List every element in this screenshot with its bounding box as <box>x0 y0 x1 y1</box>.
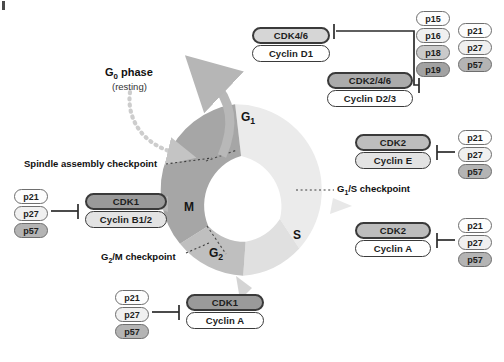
cyclin-pill-cyclind23[interactable]: Cyclin D2/3 <box>327 90 413 107</box>
inhibitor-group-ink4: p15 p16 p18 p19 <box>416 11 450 77</box>
inhibitor-p16[interactable]: p16 <box>416 28 450 43</box>
g0-reentry-arrow <box>129 92 176 153</box>
inhibitor-group-cipkip-top: p21 p27 p57 <box>458 23 492 72</box>
complex-cdk1-cyclina[interactable]: CDK1 Cyclin A <box>186 294 264 329</box>
complex-cdk46-cyclind1[interactable]: CDK4/6 Cyclin D1 <box>252 27 330 62</box>
cdk-pill-cdk46[interactable]: CDK4/6 <box>252 27 330 44</box>
inhibitor-p27-top[interactable]: p27 <box>458 40 492 55</box>
inhibitor-p21-cyclina-s[interactable]: p21 <box>458 218 492 233</box>
inhibitor-p27-cyclina-s[interactable]: p27 <box>458 235 492 250</box>
cdk-pill-cdk2-a[interactable]: CDK2 <box>355 222 431 239</box>
checkpoint-label-spindle: Spindle assembly checkpoint <box>24 158 157 169</box>
inhibitor-group-cyclinb: p21 p27 p57 <box>14 189 48 238</box>
inhibitor-p57-cycline[interactable]: p57 <box>458 164 492 179</box>
g0-title-rest: phase <box>118 66 153 78</box>
phase-label-m: M <box>184 200 194 214</box>
inhibitor-p21-cycline[interactable]: p21 <box>458 130 492 145</box>
cyclin-pill-cyclina-m[interactable]: Cyclin A <box>186 312 264 329</box>
g1s-b: /S checkpoint <box>348 183 410 194</box>
inhibitor-p57-cdk1a[interactable]: p57 <box>115 324 149 339</box>
inhibitor-p57-cyclinb[interactable]: p57 <box>14 223 48 238</box>
connector-ink4-bracket <box>336 31 414 48</box>
cdk-pill-cdk2-e[interactable]: CDK2 <box>355 134 431 151</box>
cdk-pill-cdk246[interactable]: CDK2/4/6 <box>327 72 413 89</box>
inhibitor-group-cdk1-cyclina: p21 p27 p57 <box>115 290 149 339</box>
cdk-pill-cdk1-b[interactable]: CDK1 <box>85 193 167 210</box>
g2m-b: /M checkpoint <box>112 251 175 262</box>
inhibitor-p19[interactable]: p19 <box>416 62 450 77</box>
g0-phase-subtitle: (resting) <box>112 81 147 92</box>
phase-g2-sub: 2 <box>218 252 223 262</box>
cyclin-pill-cyclind1[interactable]: Cyclin D1 <box>252 45 330 62</box>
complex-cdk246-cyclind23[interactable]: CDK2/4/6 Cyclin D2/3 <box>327 72 413 107</box>
cyclin-pill-cycline[interactable]: Cyclin E <box>355 152 431 169</box>
inhibitor-p27-cdk1a[interactable]: p27 <box>115 307 149 322</box>
inhibitor-p57-top[interactable]: p57 <box>458 57 492 72</box>
cyclin-pill-cyclinb12[interactable]: Cyclin B1/2 <box>85 211 167 228</box>
inhibitor-p27-cycline[interactable]: p27 <box>458 147 492 162</box>
complex-cdk2-cyclina[interactable]: CDK2 Cyclin A <box>355 222 431 257</box>
phase-g1-sub: 1 <box>250 116 255 126</box>
complex-cdk1-cyclinb[interactable]: CDK1 Cyclin B1/2 <box>85 193 167 228</box>
inhibitor-group-cyclina-s: p21 p27 p57 <box>458 218 492 267</box>
phase-label-g2: G2 <box>209 246 223 262</box>
inhibitor-group-cycline: p21 p27 p57 <box>458 130 492 179</box>
phase-label-s: S <box>293 228 301 242</box>
inhibitor-p21-cdk1a[interactable]: p21 <box>115 290 149 305</box>
g0-title-g: G <box>105 66 114 78</box>
inhibitor-p57-cyclina-s[interactable]: p57 <box>458 252 492 267</box>
inhibitor-p21-top[interactable]: p21 <box>458 23 492 38</box>
cycle-ring <box>150 104 352 300</box>
cdk-pill-cdk1-a[interactable]: CDK1 <box>186 294 264 311</box>
checkpoint-label-g2m: G2/M checkpoint <box>101 251 176 264</box>
checkpoint-label-g1s: G1/S checkpoint <box>337 183 410 196</box>
g0-phase-title: G0 phase <box>105 66 153 81</box>
inhibitor-p21-cyclinb[interactable]: p21 <box>14 189 48 204</box>
phase-label-g1: G1 <box>241 110 255 126</box>
cyclin-pill-cyclina-s[interactable]: Cyclin A <box>355 240 431 257</box>
complex-cdk2-cycline[interactable]: CDK2 Cyclin E <box>355 134 431 169</box>
inhibitor-p27-cyclinb[interactable]: p27 <box>14 206 48 221</box>
cell-cycle-diagram: G1 S G2 M G0 phase (resting) Spindle ass… <box>0 0 504 362</box>
inhibitor-p15[interactable]: p15 <box>416 11 450 26</box>
ring-tail-s <box>330 198 352 214</box>
inhibitor-p18[interactable]: p18 <box>416 45 450 60</box>
